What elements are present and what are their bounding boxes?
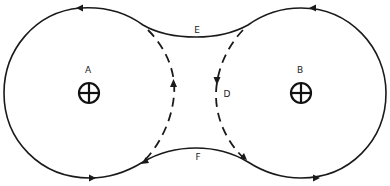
label-f: F: [195, 152, 200, 162]
label-a: A: [85, 65, 92, 75]
arrow-top-left-icon: [76, 5, 83, 12]
arrow-left-dashed-up-icon: [170, 79, 177, 87]
label-b: B: [297, 65, 303, 75]
right-dashed-arc: [216, 30, 248, 162]
flow-diagram: A B E F D: [0, 0, 390, 186]
center-a-symbol-icon: [79, 83, 99, 103]
label-e: E: [194, 25, 200, 35]
arrow-right-dashed-down-icon: [214, 77, 221, 85]
center-b-symbol-icon: [291, 83, 311, 103]
arrow-top-right-icon: [309, 5, 316, 12]
label-d: D: [224, 89, 231, 99]
arrow-bottom-left-icon: [89, 175, 96, 182]
left-dashed-arc: [143, 30, 174, 162]
